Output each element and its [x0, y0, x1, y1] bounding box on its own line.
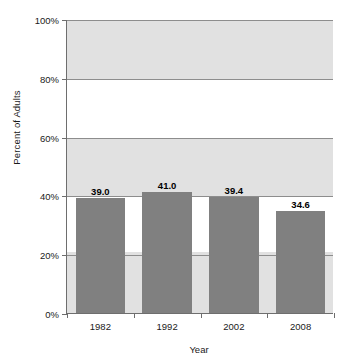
- y-axis-title: Percent of Adults: [11, 68, 22, 188]
- y-axis-tick: [62, 196, 67, 197]
- y-axis-tick: [62, 138, 67, 139]
- x-axis-tick-label: 2002: [223, 321, 244, 332]
- bar-value-label: 39.0: [76, 186, 126, 197]
- x-axis-tick: [134, 313, 135, 318]
- background-band: [67, 20, 333, 79]
- y-axis-tick-label: 100%: [35, 15, 59, 26]
- y-axis-tick: [62, 255, 67, 256]
- x-axis-tick: [67, 313, 68, 318]
- y-axis-tick-label: 60%: [40, 132, 59, 143]
- y-axis-tick-label: 80%: [40, 73, 59, 84]
- cutoff-text-strip: [0, 358, 353, 363]
- gridline: [67, 20, 333, 21]
- x-axis-tick-label: 1982: [90, 321, 111, 332]
- x-axis-tick-label: 1992: [157, 321, 178, 332]
- x-axis-title: Year: [66, 344, 332, 355]
- y-axis-tick: [62, 20, 67, 21]
- bar: [76, 198, 126, 313]
- bar-chart-figure: Percent of Adults 0%20%40%60%80%100%39.0…: [0, 0, 353, 363]
- bar-value-label: 34.6: [276, 199, 326, 210]
- x-axis-tick: [201, 313, 202, 318]
- plot-inner: [67, 20, 333, 313]
- bar: [276, 211, 326, 313]
- y-axis-tick-label: 40%: [40, 191, 59, 202]
- x-axis-tick-label: 2008: [290, 321, 311, 332]
- x-axis-tick: [267, 313, 268, 318]
- y-axis-tick-label: 0%: [45, 309, 59, 320]
- bar-value-label: 41.0: [142, 180, 192, 191]
- bar: [209, 197, 259, 313]
- gridline: [67, 138, 333, 139]
- plot-area: 0%20%40%60%80%100%39.0198241.0199239.420…: [66, 20, 333, 314]
- bar-value-label: 39.4: [209, 185, 259, 196]
- x-axis-tick: [334, 313, 335, 318]
- y-axis-tick-label: 20%: [40, 250, 59, 261]
- y-axis-tick: [62, 79, 67, 80]
- gridline: [67, 79, 333, 80]
- bar: [142, 192, 192, 313]
